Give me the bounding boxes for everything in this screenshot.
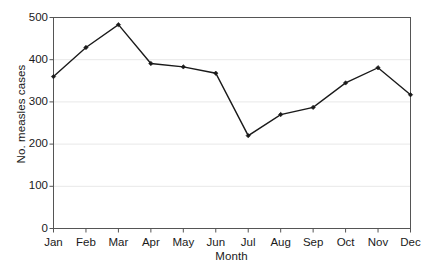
axis-box (54, 18, 411, 229)
x-tick-marks (54, 229, 411, 233)
plot-area (0, 0, 430, 274)
axis-frame (54, 18, 411, 229)
data-point-markers (51, 22, 412, 137)
measles-cases-line-chart: No. measles cases Month 0100200300400500… (0, 0, 430, 274)
y-tick-marks (50, 18, 54, 229)
data-point-May (181, 65, 185, 69)
data-series-line (54, 25, 411, 136)
gridlines (54, 18, 411, 187)
